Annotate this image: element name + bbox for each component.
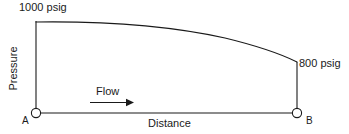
point-b-label: B bbox=[306, 116, 313, 126]
outlet-pressure-label: 800 psig bbox=[299, 58, 341, 69]
y-axis-label: Pressure bbox=[8, 46, 19, 90]
flow-label: Flow bbox=[96, 86, 119, 97]
point-b-marker bbox=[292, 108, 301, 117]
point-a-label: A bbox=[22, 116, 29, 126]
flow-arrow-head bbox=[126, 99, 134, 106]
diagram-canvas bbox=[0, 0, 349, 134]
inlet-pressure-label: 1000 psig bbox=[19, 2, 67, 13]
pressure-curve bbox=[36, 22, 297, 62]
pressure-distance-diagram: 1000 psig 800 psig Pressure Distance Flo… bbox=[0, 0, 349, 134]
x-axis-label: Distance bbox=[148, 118, 191, 129]
point-a-marker bbox=[31, 108, 40, 117]
